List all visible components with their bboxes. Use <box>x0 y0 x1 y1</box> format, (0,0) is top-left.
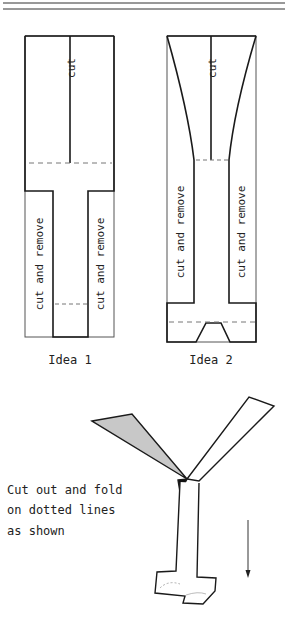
idea-2-left-label: cut and remove <box>174 186 187 279</box>
idea-1-center-label: cut <box>65 58 78 78</box>
instruction-line-1: Cut out and fold <box>7 483 123 497</box>
helicopter-stem <box>155 482 216 604</box>
idea-2-center-label: cut <box>206 58 219 78</box>
right-wing <box>187 397 274 481</box>
arrow-down-icon <box>246 520 251 578</box>
left-wing-shaded <box>92 414 187 479</box>
instruction-line-2: on dotted lines <box>7 503 115 517</box>
idea-1-left-label: cut and remove <box>33 218 46 311</box>
idea-2-caption: Idea 2 <box>189 353 232 367</box>
instruction-line-3: as shown <box>7 524 65 538</box>
idea-2-right-label: cut and remove <box>235 186 248 279</box>
diagram-canvas: cut cut and remove cut and remove Idea 1… <box>0 0 285 629</box>
idea-1-caption: Idea 1 <box>48 353 91 367</box>
idea-1-right-label: cut and remove <box>94 218 107 311</box>
